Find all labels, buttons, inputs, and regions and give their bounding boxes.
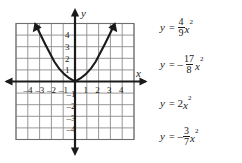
answer-choices: y = 4 9 x2 y = – 17 8 x2 [160,8,240,158]
svg-text:–4: –4 [66,124,77,134]
equation-a-numerator: 4 [178,17,185,27]
svg-text:–1: –1 [66,89,76,99]
equation-c-variable: x2 [183,98,191,111]
equation-c-lhs: y [160,97,168,109]
equation-b-fraction: 17 8 [183,54,195,75]
equation-d-equals: = [168,131,178,142]
svg-text:–3: –3 [34,85,45,95]
equation-d-minus-sign: – [178,130,184,142]
equation-b-minus-sign: – [178,58,184,70]
x-axis-label: x [135,67,141,79]
equation-d: y = – 3 7 x2 [160,126,198,147]
equation-c: y = 2 x2 [160,97,191,110]
equation-b-numerator: 17 [183,54,195,64]
graph-canvas: y x –4 –3 –2 –1 1 2 3 4 4 3 2 1 –1 –2 [4,2,154,162]
svg-text:–4: –4 [23,85,34,95]
answer-choice-c[interactable]: y = 2 x2 [160,88,240,118]
equation-a-exponent: 2 [189,18,193,26]
equation-b-equals: = [168,59,178,70]
svg-text:–2: –2 [66,101,76,111]
svg-text:–3: –3 [66,113,77,123]
equation-b-exponent: 2 [200,55,204,63]
equation-b: y = – 17 8 x2 [160,54,203,75]
equation-d-numerator: 3 [183,126,190,136]
equation-a-equals: = [168,22,178,33]
equation-a: y = 4 9 x2 [160,17,193,38]
coordinate-graph: y x –4 –3 –2 –1 1 2 3 4 4 3 2 1 –1 –2 [4,2,154,162]
svg-text:1: 1 [84,85,89,95]
svg-text:2: 2 [95,85,100,95]
svg-text:2: 2 [65,54,70,64]
svg-text:3: 3 [107,85,112,95]
equation-b-lhs: y [160,58,168,70]
equation-d-denominator: 7 [183,136,190,147]
equation-c-equals: = [168,98,178,109]
equation-d-variable: x2 [190,131,198,144]
equation-d-lhs: y [160,130,168,142]
equation-a-denominator: 9 [178,27,185,38]
svg-text:3: 3 [65,42,70,52]
equation-d-fraction: 3 7 [183,126,190,147]
equation-a-variable: x2 [185,22,193,35]
svg-text:–2: –2 [46,85,56,95]
answer-choice-b[interactable]: y = – 17 8 x2 [160,49,240,79]
equation-b-denominator: 8 [186,64,193,75]
equation-b-variable: x2 [195,59,203,72]
svg-text:4: 4 [119,85,124,95]
answer-choice-a[interactable]: y = 4 9 x2 [160,12,240,42]
equation-a-lhs: y [160,21,168,33]
math-figure: y x –4 –3 –2 –1 1 2 3 4 4 3 2 1 –1 –2 [0,0,242,163]
equation-a-fraction: 4 9 [178,17,185,38]
svg-text:1: 1 [65,65,70,75]
answer-choice-d[interactable]: y = – 3 7 x2 [160,121,240,151]
equation-d-exponent: 2 [195,127,199,135]
y-axis-label: y [80,7,86,19]
svg-text:4: 4 [65,30,70,40]
equation-c-exponent: 2 [188,94,192,102]
